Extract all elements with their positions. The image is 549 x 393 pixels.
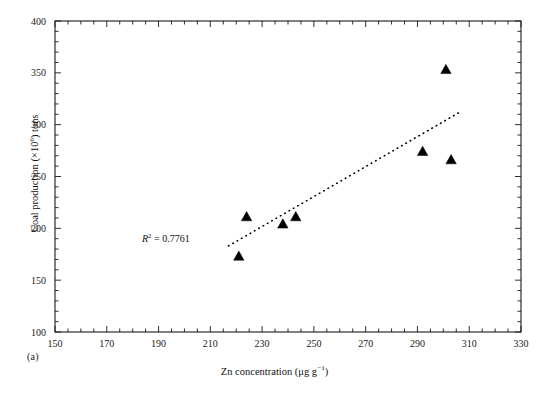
x-axis-tick-label: 190 [151,338,166,349]
r-squared-exponent: 2 [148,232,151,239]
data-point-marker [417,146,427,155]
scatter-plot: 1501701902102302502702903103301001502002… [0,0,549,393]
y-axis-title-close: ) tons [29,114,40,138]
x-axis-tick-label: 150 [48,338,63,349]
x-axis-tick-label: 210 [203,338,218,349]
data-point-marker [441,64,451,73]
x-axis-tick-label: 290 [410,338,425,349]
r-squared-annotation: R2 = 0.7761 [142,232,190,244]
x-axis-tick-label: 230 [255,338,270,349]
x-axis-tick-label: 250 [306,338,321,349]
r-squared-value: = 0.7761 [154,233,190,244]
x-axis-tick-label: 330 [514,338,529,349]
y-axis-title-exponent: 6 [28,138,36,142]
x-axis-title-unit-exponent: −1 [317,364,325,372]
figure-panel: 1501701902102302502702903103301001502002… [0,0,549,393]
x-axis-title-main: Zn concentration ( [221,366,299,377]
data-point-marker [278,219,288,228]
y-axis-tick-label: 400 [31,16,46,27]
data-point-marker [241,212,251,221]
x-axis-tick-label: 170 [99,338,114,349]
data-point-marker [291,212,301,221]
y-axis-tick-label: 100 [31,327,46,338]
panel-label: (a) [27,351,39,362]
plot-frame [55,21,521,332]
x-axis-tick-label: 310 [462,338,477,349]
y-axis-title-main: Coal production (×10 [29,142,40,233]
x-axis-title-unit: μg g [298,366,317,377]
data-point-marker [446,155,456,164]
x-axis-title: Zn concentration (μg g−1) [0,364,549,377]
trendline [228,111,461,246]
y-axis-title: Coal production (×106) tons [28,53,41,293]
x-axis-tick-label: 270 [358,338,373,349]
x-axis-title-close: ) [325,366,329,377]
data-point-marker [234,251,244,260]
